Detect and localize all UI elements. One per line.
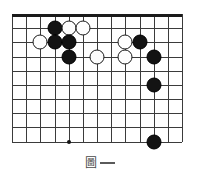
stone-white-4-1[interactable] <box>61 21 76 36</box>
stone-white-6-3[interactable] <box>90 49 105 64</box>
grid-line-horizontal-4 <box>12 71 182 72</box>
stone-black-9-2[interactable] <box>132 35 147 50</box>
stone-black-3-2[interactable] <box>47 35 62 50</box>
stone-black-10-3[interactable] <box>146 49 161 64</box>
grid-line-vertical-7 <box>111 14 112 142</box>
stone-white-2-2[interactable] <box>33 35 48 50</box>
stone-black-10-5[interactable] <box>146 77 161 92</box>
go-board[interactable] <box>12 14 182 142</box>
grid-line-vertical-8 <box>125 14 126 142</box>
caption-character: 圖 <box>85 157 97 169</box>
grid-line-vertical-0 <box>12 14 13 142</box>
grid-line-vertical-9 <box>140 14 141 142</box>
stone-white-5-1[interactable] <box>75 21 90 36</box>
grid-line-horizontal-6 <box>12 99 182 100</box>
grid-line-horizontal-1 <box>12 28 182 29</box>
stone-black-10-9[interactable] <box>146 134 161 149</box>
grid-line-horizontal-0 <box>12 14 182 17</box>
stone-black-4-3[interactable] <box>61 49 76 64</box>
star-point-0 <box>67 140 71 144</box>
stone-black-3-1[interactable] <box>47 21 62 36</box>
stone-white-8-3[interactable] <box>118 49 133 64</box>
grid-line-horizontal-8 <box>12 127 182 128</box>
stone-black-4-2[interactable] <box>61 35 76 50</box>
stone-white-8-2[interactable] <box>118 35 133 50</box>
figure-caption: 圖 <box>0 157 200 169</box>
grid-line-vertical-12 <box>182 14 183 142</box>
grid-line-vertical-1 <box>26 14 27 142</box>
grid-line-vertical-2 <box>40 14 41 142</box>
grid-line-vertical-6 <box>97 14 98 142</box>
grid-line-vertical-11 <box>168 14 169 142</box>
grid-line-horizontal-7 <box>12 113 182 114</box>
go-diagram-figure: 圖 <box>0 0 200 186</box>
caption-dash-icon <box>100 162 115 164</box>
